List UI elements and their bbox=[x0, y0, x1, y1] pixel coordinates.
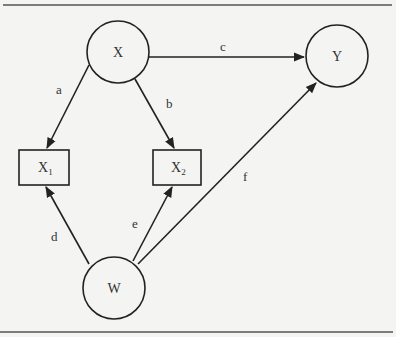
node-label-y: Y bbox=[332, 49, 342, 64]
edge-f: f bbox=[138, 83, 316, 264]
node-x2: X2 bbox=[153, 150, 201, 185]
edge-a: a bbox=[47, 65, 89, 148]
node-x1: X1 bbox=[19, 150, 69, 185]
edge-c: c bbox=[149, 39, 304, 57]
node-label-x1: X1 bbox=[38, 160, 53, 177]
edge-label-c: c bbox=[220, 39, 226, 54]
path-diagram: a b c d e f X Y X1 X2 W bbox=[0, 0, 396, 337]
node-y: Y bbox=[306, 25, 368, 87]
edge-label-d: d bbox=[51, 229, 58, 244]
edge-b: b bbox=[135, 79, 174, 148]
node-label-w: W bbox=[107, 281, 121, 296]
edge-label-b: b bbox=[166, 96, 173, 111]
edge-d: d bbox=[46, 187, 89, 264]
node-w: W bbox=[83, 257, 145, 319]
node-label-x2: X2 bbox=[171, 160, 186, 177]
edge-label-e: e bbox=[132, 216, 138, 231]
edge-label-f: f bbox=[243, 169, 248, 184]
node-x: X bbox=[87, 21, 149, 83]
edge-label-a: a bbox=[56, 82, 62, 97]
node-label-x: X bbox=[113, 45, 123, 60]
